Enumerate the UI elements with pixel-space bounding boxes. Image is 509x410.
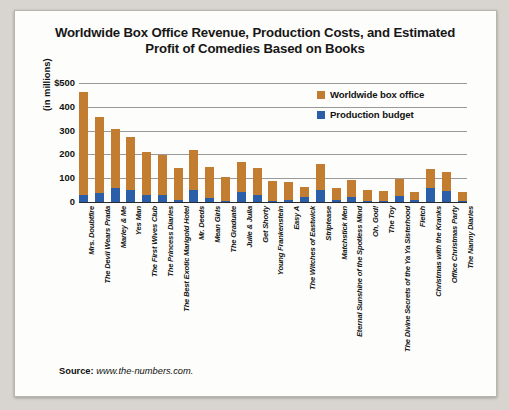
y-axis-tick: 400 [59,101,75,112]
bar-segment-worldwide-box-office [442,172,451,192]
bar-segment-worldwide-box-office [300,187,309,197]
bar-segment-production-budget [442,191,451,202]
bar [395,179,404,202]
x-axis-tick: Mr. Deeds [189,204,198,314]
x-axis-tick: Oh, God! [363,204,372,314]
y-axis-tick: 100 [59,172,75,183]
bar [316,164,325,202]
y-axis-tick: 300 [59,125,75,136]
bar-segment-worldwide-box-office [111,129,120,188]
bar [458,192,467,202]
bar [363,190,372,202]
x-axis-tick: Young Frankenstein [268,204,277,314]
bar [300,187,309,202]
bar-segment-production-budget [426,188,435,202]
bar [142,152,151,202]
x-axis-tick: Mrs. Doubtfire [79,204,88,314]
chart-figure: Worldwide Box Office Revenue, Production… [14,10,497,397]
bar-segment-worldwide-box-office [363,190,372,201]
x-axis-labels: Mrs. DoubtfireThe Devil Wears PradaMarle… [79,204,467,314]
bar-segment-production-budget [79,195,88,202]
bar-segment-worldwide-box-office [316,164,325,190]
bar-segment-production-budget [316,190,325,202]
y-axis-tick: $500 [54,77,75,88]
x-axis-tick: Matchstick Men [332,204,341,314]
bar [410,192,419,202]
bar [95,117,104,202]
x-axis-tick: Fletch [410,204,419,314]
y-axis-tick: 200 [59,148,75,159]
bar [237,162,246,202]
x-axis-tick: The Divine Secrets of the Ya Ya Sisterho… [395,204,404,314]
source-note: Source: www.the-numbers.com. [59,366,193,376]
x-axis-tick: Office Christmas Party [442,204,451,314]
legend-label: Worldwide box office [330,89,424,100]
bar [174,168,183,203]
source-value: www.the-numbers.com. [96,366,193,376]
bar-segment-worldwide-box-office [205,167,214,198]
bar-segment-worldwide-box-office [395,179,404,195]
x-axis-tick: The Princess Diaries [158,204,167,314]
bar [347,180,356,202]
bar [332,188,341,202]
x-axis-tick: The Witches of Eastwick [300,204,309,314]
bar-segment-worldwide-box-office [268,181,277,201]
legend-item-worldwide-box-office: Worldwide box office [317,89,424,100]
x-axis-tick: The Graduate [221,204,230,314]
bar-segment-production-budget [189,190,198,202]
bar-segment-worldwide-box-office [158,155,167,195]
bar-segment-production-budget [111,188,120,202]
bar [379,191,388,202]
bar [442,172,451,202]
bar-segment-worldwide-box-office [221,177,230,201]
bar-segment-worldwide-box-office [253,168,262,195]
bar-segment-worldwide-box-office [79,92,88,195]
bar [426,169,435,202]
legend-swatch-blue [317,111,325,119]
bar-segment-production-budget [95,193,104,202]
bar-segment-production-budget [126,190,135,202]
x-axis-tick: Eternal Sunshine of the Spotless Mind [347,204,356,314]
x-axis-tick: Striptease [316,204,325,314]
legend-swatch-orange [317,91,325,99]
bar-segment-worldwide-box-office [174,168,183,200]
bar-segment-worldwide-box-office [189,150,198,190]
bar-segment-worldwide-box-office [126,137,135,190]
chart-legend: Worldwide box office Production budget [317,89,424,129]
bar-segment-worldwide-box-office [410,192,419,201]
x-axis-tick-label: The Nanny Diaries [466,206,475,269]
bar [189,150,198,202]
x-axis-tick: The Best Exotic Marigold Hotel [174,204,183,314]
legend-label: Production budget [330,109,414,120]
x-axis-tick: Get Shorty [253,204,262,314]
x-axis-tick: The First Wives Club [142,204,151,314]
x-axis-tick: Easy A [284,204,293,314]
x-axis-tick: The Nanny Diaries [458,204,467,314]
bar [253,168,262,202]
x-axis-tick: The Devil Wears Prada [95,204,104,314]
bar-segment-production-budget [142,195,151,202]
bar-segment-worldwide-box-office [426,169,435,188]
bar-segment-worldwide-box-office [95,117,104,193]
y-axis-label: (in millions) [41,58,52,111]
bar [268,181,277,202]
bar-segment-production-budget [158,195,167,202]
x-axis-tick: Mean Girls [205,204,214,314]
x-axis-tick: Yes Man [126,204,135,314]
bar-segment-worldwide-box-office [237,162,246,193]
bar [79,92,88,202]
bar-segment-production-budget [253,195,262,202]
bar-segment-worldwide-box-office [332,188,341,199]
bar [111,129,120,202]
bar-segment-worldwide-box-office [379,191,388,201]
x-axis-tick: The Toy [379,204,388,314]
chart-title: Worldwide Box Office Revenue, Production… [39,25,471,56]
legend-item-production-budget: Production budget [317,109,424,120]
x-axis-tick: Julie & Julia [237,204,246,314]
x-axis-tick: Marley & Me [111,204,120,314]
bar-segment-worldwide-box-office [458,192,467,201]
bar-segment-worldwide-box-office [142,152,151,195]
bar-segment-production-budget [237,192,246,202]
bar [284,182,293,202]
bar [158,155,167,202]
